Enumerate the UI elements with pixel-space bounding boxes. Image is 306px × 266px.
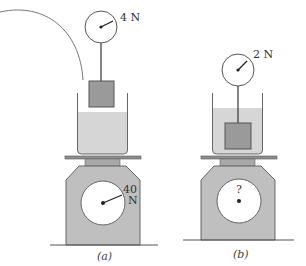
curved-line	[0, 10, 83, 80]
platform-b	[220, 159, 255, 166]
water-a	[78, 112, 128, 154]
caption-b: (b)	[233, 248, 249, 261]
balance-pivot-b	[237, 199, 241, 203]
spring-scale-reading-a: 4 N	[120, 11, 140, 24]
caption-a: (a)	[97, 250, 112, 263]
panel-b: 2 N ? (b)	[183, 48, 294, 261]
platform-a	[85, 159, 120, 166]
panel-a: 4 N 40 N (a)	[0, 10, 158, 263]
block-b	[225, 123, 251, 149]
balance-reading-b: ?	[236, 183, 242, 196]
block-a	[89, 81, 114, 107]
balance-reading-a-unit: N	[128, 194, 138, 207]
needle-pivot-b	[236, 68, 239, 71]
balance-pivot-a	[101, 201, 105, 205]
plate-b	[201, 156, 277, 159]
buoyancy-diagram: 4 N 40 N (a) 2 N	[0, 0, 306, 266]
spring-scale-reading-b: 2 N	[253, 48, 273, 61]
needle-pivot-a	[99, 25, 102, 28]
plate-a	[65, 156, 141, 159]
